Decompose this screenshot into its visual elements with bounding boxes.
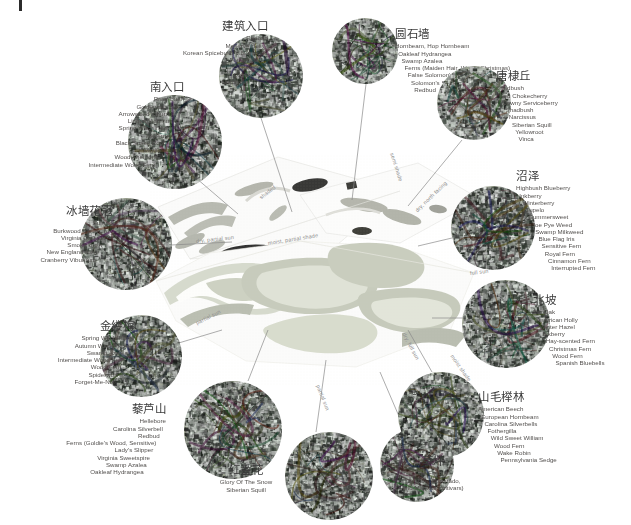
- species-item: Daylily: [48, 146, 184, 153]
- zone-title-building-entrance: 建筑入口: [116, 20, 268, 33]
- species-item: Oakleaf Hydrangea: [30, 468, 166, 475]
- zone-photo-stone-wall: [332, 18, 398, 84]
- zone-title-beech-grove: 山毛榉林: [478, 391, 602, 404]
- species-item: Carolina Silverbell: [30, 425, 166, 432]
- zone-label-shadbush-hill: 唐棣丘ShadbushRed ChokecherryDowny Serviceb…: [496, 70, 626, 142]
- species-item: Summersweet: [516, 213, 630, 220]
- species-item: Highbush Blueberry: [516, 184, 630, 191]
- species-item: Winterberry: [516, 199, 630, 206]
- zone-title-south-entrance: 南入口: [48, 81, 184, 94]
- species-item: Hornbeam, Hop Hornbeam: [395, 42, 545, 49]
- species-item: Red Chokecherry: [496, 92, 626, 99]
- species-item: Tupelo: [516, 206, 630, 213]
- species-item: Shadbush: [496, 84, 626, 91]
- species-item: Wood Fern: [22, 363, 134, 370]
- zone-title-stone-wall: 圆石墙: [395, 28, 545, 41]
- zone-label-building-entrance: 建筑入口RedbudMeserve HollyKorean Spicebush …: [116, 20, 268, 85]
- species-item: Arrowwood Viburnum: [48, 110, 184, 117]
- species-item: Oakleaf Hydrangea: [395, 50, 545, 57]
- species-item: American Beech: [478, 405, 602, 412]
- species-item: Wood Anemone: [48, 153, 184, 160]
- species-item: Black Snake Root: [48, 139, 184, 146]
- species-item: Inkberry: [516, 192, 630, 199]
- species-item: (Grande, Coronado,: [370, 477, 496, 484]
- species-item: Spiderwort: [22, 371, 134, 378]
- species-item: Swamp Azalea: [30, 461, 166, 468]
- zone-label-marsh: 沼泽Highbush BlueberryInkberryWinterberryT…: [516, 170, 630, 271]
- species-item: and Matador cultivars): [370, 484, 496, 491]
- species-item: Spanish Bluebells: [533, 359, 629, 366]
- species-item: Pennsylvania Sedge: [478, 456, 602, 463]
- zone-label-beech-grove: 山毛榉林American BeechEuropean HornbeamCarol…: [478, 391, 602, 463]
- species-item: Virginia Sweetspire: [30, 454, 166, 461]
- species-item: Royal Fern: [516, 250, 630, 257]
- zone-label-ice-wall-crown: 冰墙花冠SumacBurkwood ViburnumVirginia Creep…: [8, 205, 112, 263]
- species-item: Carolina Silverbells: [478, 420, 602, 427]
- species-item: Spring Witch Hazel: [22, 334, 134, 341]
- species-item: Sensitive Fern: [516, 242, 630, 249]
- species-item: Blue Flag Iris: [516, 235, 630, 242]
- species-item: Shadbush: [496, 106, 626, 113]
- species-item: Sumac: [8, 219, 112, 226]
- species-item: Downy Serviceberry: [496, 99, 626, 106]
- species-item: Intermediate Wood Fern: [48, 161, 184, 168]
- species-item: Inkberry: [48, 132, 184, 139]
- species-item: Autumn Witch Hazel: [22, 342, 134, 349]
- species-item: New England Aster: [8, 248, 112, 255]
- species-item: European Hornbeam: [478, 413, 602, 420]
- species-item: Fothergilla: [116, 56, 268, 63]
- species-item: Redbud: [116, 34, 268, 41]
- species-item: Winter Hazel: [533, 323, 629, 330]
- species-item: Joe Pye Weed: [516, 221, 630, 228]
- species-item: Yellowroot: [496, 128, 626, 135]
- species-item: Hay-scented Fern: [533, 337, 629, 344]
- zone-title-shadbush-hill: 唐棣丘: [496, 70, 626, 83]
- zone-title-north-slope: 北坡: [533, 294, 629, 307]
- species-item: Swamp Azalea: [395, 57, 545, 64]
- species-item: Intermediate Wood Fern: [22, 356, 134, 363]
- species-item: Vinca: [496, 135, 626, 142]
- species-item: Cranberry Viburnum: [8, 256, 112, 263]
- species-item: Burkwood Viburnum: [8, 227, 112, 234]
- species-item: Hellebore: [30, 417, 166, 424]
- species-item: Redbud: [30, 432, 166, 439]
- species-item: Meserve Holly: [116, 42, 268, 49]
- zone-label-north-slope: 北坡Pin OakAmerican HollyWinter HazelInkbe…: [533, 294, 629, 366]
- species-item: Christmas Fern: [533, 345, 629, 352]
- species-item: Wild Sweet William: [478, 434, 602, 441]
- species-item: Inkberry: [533, 330, 629, 337]
- zone-label-south-entrance: 南入口River BirchGoldenrain TreeArrowwood V…: [48, 81, 184, 168]
- species-item: Swamp Azalea: [22, 349, 134, 356]
- species-item: Tall Fescue: [370, 469, 496, 476]
- species-item: Daylily: [116, 71, 268, 78]
- species-item: Cinnamon Fern: [516, 257, 630, 264]
- zone-label-witch-hazel: 金缕梅Spring Witch HazelAutumn Witch HazelS…: [22, 320, 134, 385]
- zone-title-lawn: 草坪: [370, 455, 496, 468]
- zone-title-ice-wall-crown: 冰墙花冠: [8, 205, 112, 218]
- species-item: Smoke Bush: [8, 241, 112, 248]
- species-item: Swamp Milkweed: [516, 228, 630, 235]
- species-item: Glory Of The Snow: [186, 478, 306, 485]
- species-item: Wake Robin: [478, 449, 602, 456]
- species-item: Siberian Squill: [496, 121, 626, 128]
- map-condition-note: partial sun: [315, 384, 331, 411]
- species-item: Virginia Creeper: [8, 234, 112, 241]
- species-item: Lady's Slipper: [30, 446, 166, 453]
- species-item: River Birch: [48, 95, 184, 102]
- species-item: Wood Fern: [533, 352, 629, 359]
- species-item: Ferns (Goldie's Wood, Sensitive): [30, 439, 166, 446]
- species-item: Spring Witch Hazel: [48, 124, 184, 131]
- species-item: American Holly: [533, 316, 629, 323]
- species-item: Linden Viburnum: [48, 117, 184, 124]
- species-item: Wood Fern: [478, 442, 602, 449]
- zone-label-hellebore-hill: 藜芦山HelleboreCarolina SilverbellRedbudFer…: [30, 403, 166, 475]
- zone-title-crocus: 红番花: [186, 464, 306, 477]
- species-item: Goldenrain Tree: [48, 103, 184, 110]
- species-item: Fothergilla: [478, 427, 602, 434]
- corner-registration-mark: [19, 0, 22, 11]
- species-item: Forget-Me-Not: [22, 378, 134, 385]
- zone-title-hellebore-hill: 藜芦山: [30, 403, 166, 416]
- species-item: Korean Spicebush Viburnum: [116, 49, 268, 56]
- zone-title-witch-hazel: 金缕梅: [22, 320, 134, 333]
- zone-title-marsh: 沼泽: [516, 170, 630, 183]
